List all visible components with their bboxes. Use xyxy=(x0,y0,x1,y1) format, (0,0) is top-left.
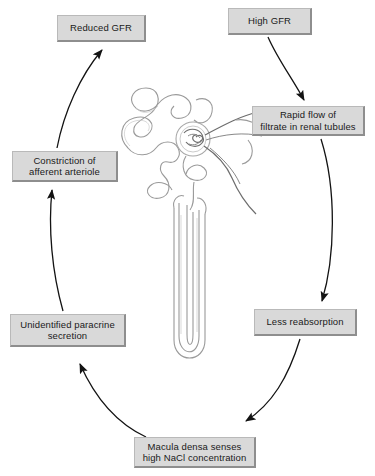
arrow-high-gfr-to-rapid-flow xyxy=(268,37,304,100)
proximal-convoluted-tubule xyxy=(122,88,213,198)
node-reduced-gfr-label: Reduced GFR xyxy=(70,22,132,34)
arrow-macula-densa-to-paracrine xyxy=(80,364,146,437)
loop-of-henle xyxy=(174,196,206,358)
glomerulus-and-capsule xyxy=(176,122,210,156)
diagram-canvas: Reduced GFR High GFR Rapid flow of filtr… xyxy=(0,0,375,476)
node-less-reabsorption-label: Less reabsorption xyxy=(266,316,343,328)
arrow-rapid-flow-to-less-reabsorption xyxy=(321,139,332,301)
node-macula-densa-label: Macula densa senses high NaCl concentrat… xyxy=(143,441,247,464)
node-unidentified-paracrine-secretion: Unidentified paracrine secretion xyxy=(10,314,126,347)
arrow-constriction-to-reduced-gfr xyxy=(57,50,102,148)
arrow-layer xyxy=(0,0,375,476)
node-constriction-of-afferent-arteriole: Constriction of afferent arteriole xyxy=(12,151,118,182)
nephron-illustration xyxy=(0,0,375,476)
node-high-gfr: High GFR xyxy=(228,8,312,35)
node-less-reabsorption: Less reabsorption xyxy=(254,309,357,336)
arrow-paracrine-to-constriction xyxy=(50,190,63,311)
distal-convoluted-tubule xyxy=(183,156,206,210)
node-paracrine-label: Unidentified paracrine secretion xyxy=(20,319,115,342)
node-macula-densa: Macula densa senses high NaCl concentrat… xyxy=(134,437,256,468)
node-constriction-label: Constriction of afferent arteriole xyxy=(29,155,100,178)
arrow-less-reabsorption-to-macula-densa xyxy=(246,339,300,421)
node-high-gfr-label: High GFR xyxy=(248,15,291,27)
node-rapid-flow-of-filtrate: Rapid flow of filtrate in renal tubules xyxy=(252,106,365,136)
node-rapid-flow-label: Rapid flow of filtrate in renal tubules xyxy=(260,109,355,132)
node-reduced-gfr: Reduced GFR xyxy=(57,15,146,42)
